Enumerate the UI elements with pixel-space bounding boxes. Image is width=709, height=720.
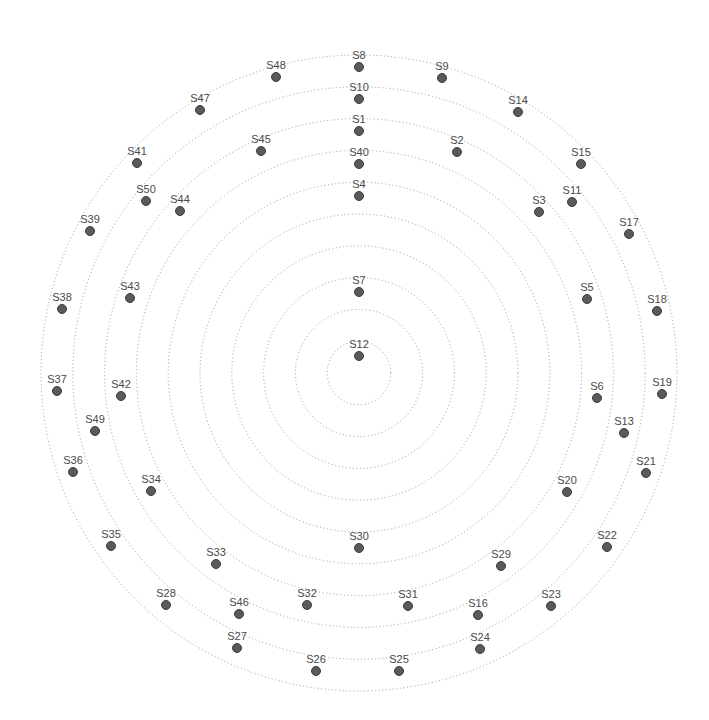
- node-dot-icon: [235, 610, 244, 619]
- ring-9: [73, 87, 645, 659]
- node-s49: S49: [85, 413, 105, 436]
- ring-1: [327, 341, 391, 405]
- node-s23: S23: [541, 588, 561, 611]
- node-dot-icon: [514, 108, 523, 117]
- node-label: S5: [580, 281, 593, 293]
- node-dot-icon: [126, 294, 135, 303]
- node-dot-icon: [303, 601, 312, 610]
- node-s38: S38: [52, 291, 72, 314]
- node-label: S48: [266, 59, 286, 71]
- node-s40: S40: [349, 146, 369, 169]
- node-label: S36: [63, 454, 83, 466]
- node-s6: S6: [590, 380, 603, 403]
- node-dot-icon: [395, 667, 404, 676]
- node-dot-icon: [497, 562, 506, 571]
- node-dot-icon: [355, 160, 364, 169]
- node-s13: S13: [614, 415, 634, 438]
- node-label: S37: [47, 373, 67, 385]
- node-label: S27: [227, 630, 247, 642]
- node-s26: S26: [306, 653, 326, 676]
- node-s3: S3: [532, 194, 545, 217]
- node-label: S23: [541, 588, 561, 600]
- node-dot-icon: [476, 645, 485, 654]
- node-dot-icon: [196, 106, 205, 115]
- node-label: S29: [491, 548, 511, 560]
- node-label: S35: [101, 528, 121, 540]
- node-label: S11: [563, 184, 582, 196]
- node-dot-icon: [535, 208, 544, 217]
- node-s16: S16: [468, 597, 488, 620]
- node-dot-icon: [355, 95, 364, 104]
- node-label: S33: [206, 546, 226, 558]
- node-s21: S21: [636, 455, 656, 478]
- node-label: S44: [170, 193, 190, 205]
- node-dot-icon: [625, 230, 634, 239]
- node-s25: S25: [389, 653, 409, 676]
- node-dot-icon: [355, 63, 364, 72]
- node-dot-icon: [438, 74, 447, 83]
- node-dot-icon: [117, 392, 126, 401]
- node-dot-icon: [603, 543, 612, 552]
- node-label: S38: [52, 291, 72, 303]
- node-s35: S35: [101, 528, 121, 551]
- node-s46: S46: [229, 596, 249, 619]
- node-s48: S48: [266, 59, 286, 82]
- node-s33: S33: [206, 546, 226, 569]
- node-label: S2: [450, 134, 463, 146]
- node-s1: S1: [352, 113, 365, 136]
- node-label: S7: [352, 274, 365, 286]
- node-s45: S45: [251, 133, 271, 156]
- node-dot-icon: [642, 469, 651, 478]
- node-s39: S39: [80, 213, 100, 236]
- node-dot-icon: [147, 487, 156, 496]
- node-dot-icon: [257, 147, 266, 156]
- node-s37: S37: [47, 373, 67, 396]
- node-dot-icon: [233, 644, 242, 653]
- node-dot-icon: [593, 394, 602, 403]
- node-label: S45: [251, 133, 271, 145]
- node-label: S41: [127, 145, 147, 157]
- node-s41: S41: [127, 145, 147, 168]
- node-label: S39: [80, 213, 100, 225]
- node-label: S10: [349, 81, 369, 93]
- node-s8: S8: [352, 49, 365, 72]
- node-s5: S5: [580, 281, 593, 304]
- node-dot-icon: [547, 602, 556, 611]
- node-dot-icon: [474, 611, 483, 620]
- node-label: S9: [435, 60, 448, 72]
- node-dot-icon: [86, 227, 95, 236]
- node-layer: S1S2S3S4S5S6S7S8S9S10S11S12S13S14S15S16S…: [47, 49, 672, 676]
- node-dot-icon: [58, 305, 67, 314]
- node-label: S13: [614, 415, 634, 427]
- node-dot-icon: [272, 73, 281, 82]
- node-s11: S11: [563, 184, 582, 207]
- node-label: S34: [141, 473, 161, 485]
- node-s42: S42: [111, 378, 131, 401]
- node-s31: S31: [398, 588, 418, 611]
- node-dot-icon: [577, 160, 586, 169]
- node-label: S31: [398, 588, 418, 600]
- node-dot-icon: [142, 197, 151, 206]
- ring-3: [264, 278, 455, 469]
- node-label: S21: [636, 455, 656, 467]
- node-label: S15: [571, 146, 591, 158]
- node-label: S6: [590, 380, 603, 392]
- node-label: S30: [349, 530, 369, 542]
- node-label: S24: [470, 631, 490, 643]
- node-label: S28: [156, 587, 176, 599]
- node-s27: S27: [227, 630, 247, 653]
- node-label: S26: [306, 653, 326, 665]
- node-s28: S28: [156, 587, 176, 610]
- node-s17: S17: [619, 216, 639, 239]
- node-s4: S4: [352, 178, 365, 201]
- node-s24: S24: [470, 631, 490, 654]
- node-dot-icon: [162, 601, 171, 610]
- node-s44: S44: [170, 193, 190, 216]
- node-label: S32: [297, 587, 317, 599]
- node-s14: S14: [508, 94, 528, 117]
- node-dot-icon: [453, 148, 462, 157]
- node-label: S4: [352, 178, 365, 190]
- node-label: S16: [468, 597, 488, 609]
- node-label: S46: [229, 596, 249, 608]
- node-dot-icon: [568, 198, 577, 207]
